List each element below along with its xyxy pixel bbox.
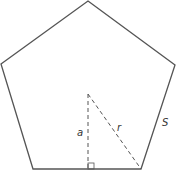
diagram-canvas: a r S — [0, 0, 176, 178]
right-angle-marker — [88, 163, 94, 169]
radius-line — [88, 94, 141, 169]
side-label: S — [162, 117, 169, 128]
apothem-label: a — [77, 127, 83, 138]
radius-label: r — [117, 122, 122, 133]
pentagon-diagram: a r S — [0, 0, 176, 178]
